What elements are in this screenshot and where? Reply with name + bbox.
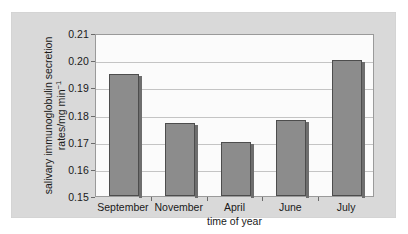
bar-slot — [332, 35, 362, 196]
y-axis-tick-label: 0.17 — [68, 137, 89, 149]
x-axis-tick-label: September — [97, 201, 148, 213]
plot-area — [95, 34, 374, 197]
bar[interactable] — [109, 74, 139, 196]
bar-shadow — [139, 76, 142, 198]
bar-slot — [109, 35, 139, 196]
bar[interactable] — [221, 142, 251, 196]
bar-slot — [165, 35, 195, 196]
bar-shadow — [306, 122, 309, 198]
bar[interactable] — [165, 123, 195, 196]
x-axis-tick-mark — [262, 197, 263, 201]
x-axis-tick-label: November — [154, 201, 202, 213]
x-axis-tick-mark — [318, 197, 319, 201]
x-axis-tick-mark — [207, 197, 208, 201]
bar-shadow — [251, 144, 254, 198]
y-axis-tick-mark — [91, 197, 95, 198]
y-axis-tick-label: 0.19 — [68, 82, 89, 94]
y-axis: 0.150.160.170.180.190.200.21 — [11, 12, 95, 218]
y-axis-tick-label: 0.15 — [68, 191, 89, 203]
bar-group — [96, 35, 373, 196]
bar-shadow — [362, 62, 365, 198]
chart-panel: salivary immunoglobulin secretion rates/… — [11, 12, 396, 218]
bar-slot — [276, 35, 306, 196]
y-axis-tick-label: 0.16 — [68, 164, 89, 176]
x-axis-tick-mark — [151, 197, 152, 201]
bar[interactable] — [332, 60, 362, 196]
y-axis-tick-label: 0.18 — [68, 110, 89, 122]
x-axis-tick-label: April — [224, 201, 245, 213]
figure: salivary immunoglobulin secretion rates/… — [0, 0, 408, 234]
bar-slot — [221, 35, 251, 196]
x-axis-tick-label: June — [279, 201, 302, 213]
bar[interactable] — [276, 120, 306, 196]
y-axis-tick-label: 0.21 — [68, 28, 89, 40]
bar-shadow — [195, 125, 198, 198]
x-axis-tick-label: July — [337, 201, 356, 213]
x-axis-title: time of year — [95, 215, 374, 227]
y-axis-tick-label: 0.20 — [68, 55, 89, 67]
